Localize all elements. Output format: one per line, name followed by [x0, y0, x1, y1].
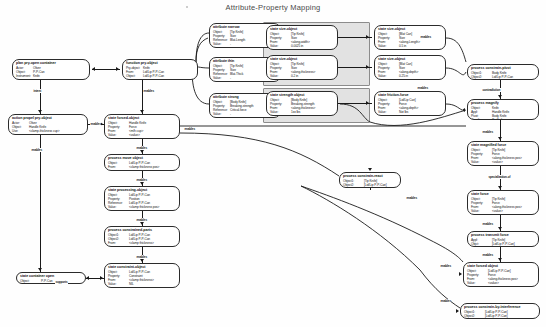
node-process-magnify[interactable]: process magnifyObject:KnifeAppl:Handle K…: [467, 99, 539, 120]
node-slots: Object1:Lid/Lip P-P-CanObject2:Lid/Lip P…: [108, 233, 177, 245]
node-slots: Object1:[Lid/Lip P-P-Can]Object2:[Lid/Li…: [464, 310, 537, 318]
arrowhead-plan-to-function-right: [116, 67, 119, 71]
node-slot: Value:<value>: [467, 281, 536, 285]
node-state-size-object-4[interactable]: state size-objectObject:[Blat Can]Proper…: [374, 55, 446, 80]
node-header: state friction-force: [378, 93, 443, 97]
node-header: state forced-object: [108, 116, 177, 120]
arrowhead-magnified-to-force: [498, 186, 502, 189]
node-slot: Value:1xx lbs: [270, 110, 335, 114]
node-slots: Object:[Blat Can]Property:SizeFrom:<alon…: [378, 32, 443, 48]
node-process-constrain-pivot[interactable]: process constrain-pivotObject1:Body Knif…: [467, 64, 539, 80]
node-slot: Result:Tip Knife: [471, 118, 536, 120]
node-header: state forced object: [467, 264, 536, 268]
node-header: state force: [471, 192, 536, 196]
node-slot: Objct:[Lid/Lip P-P-Can]: [471, 242, 536, 246]
node-process-transmit-force[interactable]: process transmit forceAppl:[Tip Knife]Ob…: [467, 231, 539, 247]
node-header: function pry-object: [126, 61, 195, 65]
node-state-magnified-force[interactable]: state magnified forceObject:[Tip Knife]P…: [467, 141, 539, 166]
node-header: state constraint-object: [108, 265, 177, 269]
node-slots: Object:KnifeAppl:Handle KnifePivot:Body …: [471, 106, 536, 120]
slot-value: 0.5 in: [399, 44, 443, 48]
node-state-force[interactable]: state forceObject:[Tip Knife]Property:Fo…: [467, 190, 539, 215]
slot-key: Object2:: [471, 75, 492, 79]
node-action-propel-pry-object[interactable]: action propel pry-objectActor:OliverObje…: [8, 114, 88, 135]
slot-value: 1xx lbs: [291, 110, 335, 114]
node-slots: Object1:[Tip Knife]Object2:[Lid/Lip P-P-…: [343, 179, 398, 187]
node-state-strength-object[interactable]: state strength objectObject:[Body Knife]…: [266, 91, 338, 116]
node-header: process constrain-pivot: [471, 66, 536, 70]
node-slots: Object:[Lid/Lip P-P-Can]Property:ForceFr…: [467, 269, 536, 285]
arrowhead-forced-to-move: [140, 150, 144, 153]
arrowhead-move-to-processing: [140, 182, 144, 185]
node-process-constrain-react[interactable]: process constrain-reactObject1:[Tip Knif…: [339, 172, 401, 188]
node-slot: Value:0.25 in: [378, 74, 443, 78]
slot-value: <clamp thickness pos>: [129, 165, 177, 169]
edge-label-enables-3: enables: [31, 148, 42, 152]
arrowhead-size2-to-size4: [366, 65, 369, 69]
edge-size3-to-constrain-pivot: [446, 38, 466, 62]
edge-size4-to-constrain-pivot: [446, 68, 466, 75]
slot-value: 0.0025 in: [291, 44, 335, 48]
slot-value: Not lbs: [399, 110, 443, 114]
node-slots: Pry-object:KnifeFrom:Lid/Lip P-P-CanObje…: [126, 66, 195, 78]
node-function-pry-object[interactable]: function pry-objectPry-object:KnifeFrom:…: [122, 59, 198, 80]
slot-key: Instrument:: [16, 74, 33, 78]
node-header: process constrain-react: [343, 174, 398, 178]
arrowhead-force-to-transmit: [498, 227, 502, 230]
node-slot: Object2:Lid/Lip P-P-Can: [471, 75, 536, 79]
node-plan-pry-open-container[interactable]: plan pry-open containerActor:OliverObjec…: [12, 59, 90, 80]
edge-label-enables-transmit: enables: [482, 253, 493, 257]
node-slot: Value:<value>: [471, 209, 536, 213]
slot-value: Lid/Lip P-P-Can: [143, 74, 195, 78]
node-state-constraint-object[interactable]: state constraint-objectObject:Lid/Lip P-…: [104, 263, 180, 288]
slot-value: <value>: [129, 133, 177, 137]
edge-plan-to-action: [40, 80, 41, 114]
node-process-constrain-by-interference[interactable]: process constrain-by-interferenceObject1…: [460, 303, 540, 319]
node-slots: Appl:[Tip Knife]Objct:[Lid/Lip P-P-Can]: [471, 238, 536, 246]
edge-label-enables-interference: enables: [440, 299, 451, 303]
slot-key: Object:: [20, 279, 41, 283]
slot-key: From:: [108, 241, 129, 245]
node-slots: Actor:OliverObject:Handle KnifeUse:<clam…: [12, 121, 85, 133]
node-process-constrained-parts[interactable]: process constrained-partsObject1:Lid/Lip…: [104, 226, 180, 247]
slot-value: <clamp thickness pos>: [129, 205, 177, 209]
node-header: state strength object: [270, 93, 335, 97]
node-state-size-object-3[interactable]: state size-objectObject:[Blat Can]Proper…: [374, 25, 446, 50]
node-header: state size-object: [378, 57, 443, 61]
node-header: process transmit force: [471, 233, 536, 237]
slot-key: Value:: [270, 44, 291, 48]
slot-value: <value>: [488, 281, 536, 285]
slot-key: Value:: [270, 110, 291, 114]
slot-key: Value:: [471, 209, 492, 213]
node-header: process constrain-by-interference: [464, 305, 537, 309]
page-title: Attribute-Property Mapping: [0, 3, 546, 12]
node-slots: Object:[Tip Knife]Property:SizeFrom:<alo…: [270, 32, 335, 48]
node-slots: Object:Handle KnifeProperty:ForceFrom:<m…: [108, 121, 177, 137]
slot-value: <value>: [492, 209, 536, 213]
node-process-move-object[interactable]: process move objectObject:Lid/Lip P-P-Ca…: [104, 154, 180, 171]
node-state-size-object-1[interactable]: state size-objectObject:[Tip Knife]Prope…: [266, 25, 338, 50]
node-slots: Object:[Body Knife]Property:Breaking-str…: [270, 98, 335, 114]
edge-label-enables-force: enables: [482, 222, 493, 226]
slot-key: Value:: [108, 282, 129, 286]
slot-key: Result:: [471, 118, 492, 120]
edge-forced-object-to-react: [180, 133, 339, 176]
arrowhead-function-to-forced-object: [140, 110, 144, 113]
node-slot: Value:0.0025 in: [270, 44, 335, 48]
node-slot: From:<clamp thickness>: [108, 241, 177, 245]
node-slot: Object:P-P-Can: [20, 279, 83, 283]
edge-label-specialization-of: specialization-of: [488, 175, 511, 179]
node-header: process constrained-parts: [108, 228, 177, 232]
node-state-forced-object[interactable]: state forced-objectObject:Handle KnifePr…: [104, 114, 180, 139]
node-state-forced-object-right[interactable]: state forced objectObject:[Lid/Lip P-P-C…: [463, 262, 539, 287]
node-header: plan pry-open container: [16, 61, 87, 65]
node-slots: Object:[Blat Can]Property:SizeFrom:<alon…: [378, 62, 443, 78]
node-state-friction-force[interactable]: state friction-forceObject:[Lid/Lip Can]…: [374, 91, 446, 116]
node-state-size-object-2[interactable]: state size-objectObject:[Tip Knife]Prope…: [266, 55, 338, 80]
slot-key: Use:: [12, 129, 29, 133]
node-header: state magnified force: [471, 143, 536, 147]
node-slot: Object:Lid/Lip P-P-Can: [126, 74, 195, 78]
node-state-processing-object[interactable]: state processing-objectObject:Lid/Lip P-…: [104, 186, 180, 211]
node-state-container-open[interactable]: state container openObject:P-P-Can: [16, 272, 86, 284]
arrowhead-processing-to-constrained-parts: [140, 222, 144, 225]
